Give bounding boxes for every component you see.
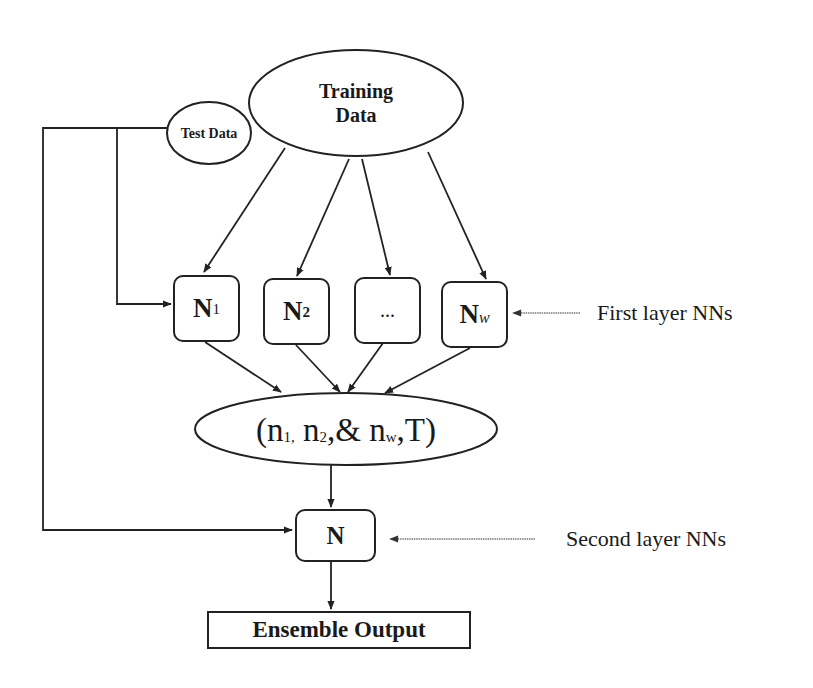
first-layer-node-ellipsis: ... [354, 277, 421, 344]
n1-sub: 1 [213, 301, 221, 318]
ensemble-output-label: Ensemble Output [252, 617, 425, 643]
first-layer-node-nw: Nw [441, 281, 508, 348]
first-layer-node-n2: N2 [263, 278, 330, 345]
edge-train-n1 [204, 148, 285, 272]
agg-close: ,T) [397, 412, 436, 448]
n1-main: N [193, 293, 213, 324]
agg-mid2: ,& n [327, 412, 386, 448]
test-data-to-n1-line [117, 128, 171, 304]
n2-main: N [283, 296, 303, 327]
edge-train-nw [428, 152, 486, 279]
agg-mid1: n [295, 412, 320, 448]
test-data-label: Test Data [181, 127, 238, 141]
diagram-canvas [0, 0, 813, 688]
ellipsis-main: ... [380, 299, 395, 322]
second-layer-label: N [326, 522, 344, 550]
test-data-to-n-line [43, 128, 292, 530]
nw-sub: w [479, 309, 490, 327]
training-data-line2: Data [319, 103, 393, 127]
second-layer-node-n: N [295, 509, 376, 562]
aggregate-label: (n1, n2,& nw,T) [256, 414, 436, 447]
ensemble-diagram: Training Data Test Data N1 N2 ... Nw (n1… [0, 0, 813, 688]
training-data-label: Training Data [319, 79, 393, 127]
edge-train-n2 [297, 159, 349, 276]
training-data-line1: Training [319, 79, 393, 103]
edge-dots-agg [348, 343, 383, 392]
agg-subw: w [386, 429, 397, 445]
agg-sub2: 2 [320, 429, 328, 445]
first-layer-annotation: First layer NNs [597, 302, 733, 324]
agg-sub1: 1, [284, 429, 295, 445]
n2-sub: 2 [303, 304, 311, 321]
edge-n2-agg [296, 345, 340, 392]
first-layer-node-n1: N1 [173, 275, 240, 342]
agg-open: (n [256, 412, 284, 448]
nw-main: N [459, 299, 479, 330]
second-layer-annotation: Second layer NNs [566, 528, 726, 550]
edge-nw-agg [385, 348, 470, 393]
edge-train-dots [362, 159, 390, 275]
ensemble-output-box: Ensemble Output [207, 611, 471, 649]
edge-n1-agg [205, 342, 281, 392]
